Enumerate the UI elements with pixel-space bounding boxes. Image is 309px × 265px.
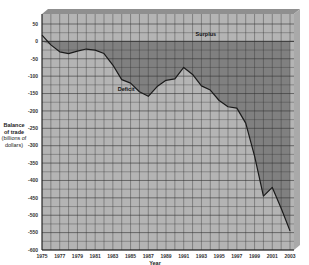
- x-axis-title: Year: [149, 260, 161, 265]
- y-tick-label: -250: [28, 125, 38, 131]
- y-tick-label: -50: [31, 56, 38, 62]
- y-tick-label: -350: [28, 160, 38, 166]
- x-tick-label: 1997: [231, 253, 242, 259]
- y-tick-label: 0: [35, 38, 38, 44]
- y-axis-title: of trade: [4, 129, 24, 135]
- x-tick-label: 1975: [36, 253, 47, 259]
- x-tick-label: 1985: [125, 253, 136, 259]
- x-tick-label: 2003: [284, 253, 295, 259]
- y-tick-label: -500: [28, 212, 38, 218]
- annotation-surplus: Surplus: [196, 31, 216, 37]
- frame-top: [42, 9, 300, 14]
- x-tick-label: 1987: [143, 253, 154, 259]
- y-tick-label: -150: [28, 90, 38, 96]
- y-tick-label: -450: [28, 195, 38, 201]
- x-tick-label: 1981: [90, 253, 101, 259]
- x-tick-label: 1993: [196, 253, 207, 259]
- trade-balance-chart: 500-50-100-150-200-250-300-350-400-450-5…: [0, 0, 309, 265]
- y-tick-label: -200: [28, 108, 38, 114]
- y-tick-label: -300: [28, 142, 38, 148]
- y-axis-title: (billions of: [2, 135, 27, 141]
- x-tick-label: 1979: [72, 253, 83, 259]
- x-tick-label: 1995: [214, 253, 225, 259]
- x-tick-label: 1983: [107, 253, 118, 259]
- y-axis-title: Balance: [3, 122, 24, 128]
- y-axis-title: dollars): [5, 142, 23, 148]
- y-tick-label: -100: [28, 73, 38, 79]
- x-tick-label: 1999: [249, 253, 260, 259]
- frame-side: [294, 9, 300, 250]
- x-tick-label: 1989: [160, 253, 171, 259]
- x-tick-label: 1977: [54, 253, 65, 259]
- x-tick-label: 2001: [267, 253, 278, 259]
- annotation-deficit: Deficit: [118, 86, 135, 92]
- x-tick-label: 1991: [178, 253, 189, 259]
- y-tick-label: -550: [28, 229, 38, 235]
- y-tick-label: -400: [28, 177, 38, 183]
- y-tick-label: 50: [32, 21, 38, 27]
- y-tick-label: -600: [28, 247, 38, 253]
